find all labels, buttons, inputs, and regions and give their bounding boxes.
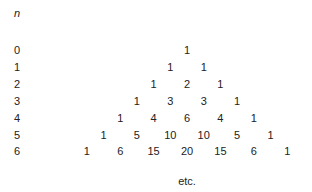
binomial-coefficient: 3: [167, 96, 173, 107]
binomial-coefficient: 1: [167, 62, 173, 73]
binomial-coefficient: 1: [117, 113, 123, 124]
row-index-label: 4: [14, 113, 20, 124]
binomial-coefficient: 1: [267, 130, 273, 141]
binomial-coefficient: 5: [234, 130, 240, 141]
binomial-coefficient: 10: [164, 130, 176, 141]
binomial-coefficient: 6: [117, 146, 123, 157]
row-index-label: 3: [14, 96, 20, 107]
etc-label: etc.: [178, 176, 196, 187]
binomial-coefficient: 2: [184, 79, 190, 90]
binomial-coefficient: 1: [251, 113, 257, 124]
binomial-coefficient: 1: [201, 62, 207, 73]
binomial-coefficient: 4: [217, 113, 223, 124]
row-index-label: 0: [14, 45, 20, 56]
binomial-coefficient: 6: [184, 113, 190, 124]
binomial-coefficient: 4: [151, 113, 157, 124]
binomial-coefficient: 1: [84, 146, 90, 157]
binomial-coefficient: 5: [134, 130, 140, 141]
binomial-coefficient: 1: [100, 130, 106, 141]
binomial-coefficient: 15: [147, 146, 159, 157]
binomial-coefficient: 6: [251, 146, 257, 157]
binomial-coefficient: 1: [217, 79, 223, 90]
row-index-label: 6: [14, 146, 20, 157]
binomial-coefficient: 1: [151, 79, 157, 90]
binomial-coefficient: 20: [181, 146, 193, 157]
binomial-coefficient: 1: [234, 96, 240, 107]
row-index-label: 2: [14, 79, 20, 90]
binomial-coefficient: 10: [198, 130, 210, 141]
row-index-label: 5: [14, 130, 20, 141]
row-index-label: 1: [14, 62, 20, 73]
binomial-coefficient: 1: [284, 146, 290, 157]
binomial-coefficient: 15: [214, 146, 226, 157]
n-axis-label: n: [14, 8, 20, 19]
binomial-coefficient: 3: [201, 96, 207, 107]
binomial-coefficient: 1: [184, 45, 190, 56]
binomial-coefficient: 1: [134, 96, 140, 107]
